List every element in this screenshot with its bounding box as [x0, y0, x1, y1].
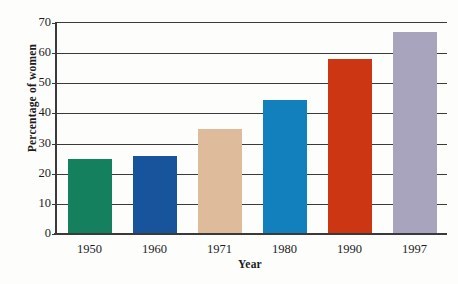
bar [328, 59, 372, 234]
y-tick-label: 10 [39, 196, 52, 211]
bar [198, 129, 242, 235]
x-tick-label: 1960 [125, 234, 185, 257]
y-tick-label: 40 [39, 106, 52, 121]
y-tick-label: 60 [39, 45, 52, 60]
x-tick-label: 1997 [385, 234, 445, 257]
y-tick-mark [52, 113, 57, 114]
x-tick-label: 1971 [190, 234, 250, 257]
y-tick-mark [52, 23, 57, 24]
x-tick-label: 1950 [60, 234, 120, 257]
y-tick-label: 50 [39, 75, 52, 90]
bar [68, 159, 112, 234]
y-tick-mark [52, 144, 57, 145]
bar [393, 32, 437, 234]
gridline [57, 83, 447, 84]
y-tick-label: 0 [45, 226, 51, 241]
y-tick-label: 70 [39, 15, 52, 30]
y-tick-mark [52, 53, 57, 54]
y-axis-title: Percentage of women [26, 18, 38, 178]
x-tick-label: 1990 [320, 234, 380, 257]
plot-area: 010203040506070 195019601971198019901997 [55, 22, 447, 234]
bar-chart: Percentage of women 010203040506070 1950… [0, 0, 458, 284]
x-axis-title: Year [55, 258, 445, 270]
y-tick-mark [52, 174, 57, 175]
bar [133, 156, 177, 234]
x-axis-baseline [54, 233, 447, 235]
bar [263, 100, 307, 234]
y-tick-mark [52, 83, 57, 84]
y-tick-label: 20 [39, 166, 52, 181]
gridline [57, 144, 447, 145]
x-tick-label: 1980 [255, 234, 315, 257]
gridline [57, 53, 447, 54]
gridline [57, 113, 447, 114]
gridline [57, 204, 447, 205]
y-tick-mark [52, 204, 57, 205]
y-tick-label: 30 [39, 136, 52, 151]
gridline [57, 174, 447, 175]
